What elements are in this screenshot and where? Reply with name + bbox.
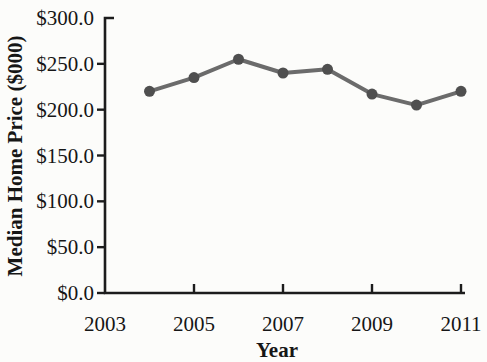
y-tick-label: $0.0 (57, 281, 94, 305)
axes (105, 18, 465, 293)
data-point-marker (456, 86, 467, 97)
data-point-marker (278, 68, 289, 79)
data-point-marker (233, 54, 244, 65)
median-home-price-line-chart: $0.0$50.0$100.0$150.0$200.0$250.0$300.02… (0, 0, 487, 362)
y-tick-label: $50.0 (47, 235, 94, 259)
chart-figure: $0.0$50.0$100.0$150.0$200.0$250.0$300.02… (0, 0, 487, 362)
data-point-marker (322, 64, 333, 75)
tick-labels: $0.0$50.0$100.0$150.0$200.0$250.0$300.02… (36, 6, 481, 336)
y-tick-label: $250.0 (36, 52, 94, 76)
data-point-marker (367, 89, 378, 100)
x-tick-label: 2003 (84, 312, 126, 336)
y-tick-label: $150.0 (36, 144, 94, 168)
y-axis-title: Median Home Price ($000) (3, 36, 27, 277)
data-point-marker (144, 86, 155, 97)
x-tick-label: 2011 (440, 312, 481, 336)
series-median-home-price (144, 54, 467, 111)
y-tick-label: $200.0 (36, 98, 94, 122)
x-tick-label: 2005 (173, 312, 215, 336)
x-tick-label: 2009 (351, 312, 393, 336)
axis-spine (105, 18, 465, 293)
data-point-marker (189, 72, 200, 83)
y-tick-label: $300.0 (36, 6, 94, 30)
x-tick-label: 2007 (262, 312, 304, 336)
x-axis-title: Year (256, 338, 298, 362)
data-point-marker (411, 100, 422, 111)
y-tick-label: $100.0 (36, 189, 94, 213)
tick-marks (97, 64, 461, 293)
